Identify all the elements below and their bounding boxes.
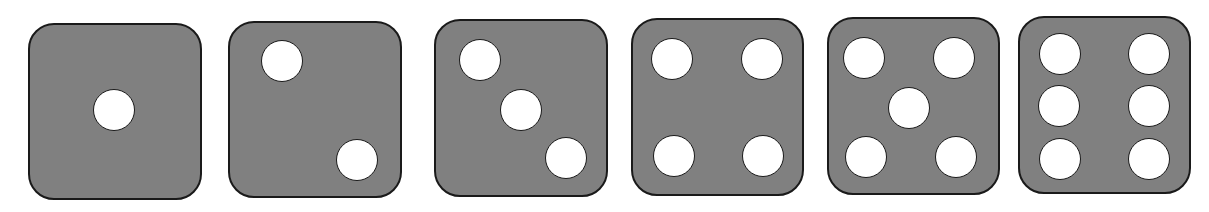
pip-icon xyxy=(843,37,885,79)
pip-icon xyxy=(1039,138,1081,180)
die-face-3: 3 xyxy=(434,19,608,197)
pip-icon xyxy=(459,39,501,81)
pip-icon xyxy=(1128,138,1170,180)
pip-icon xyxy=(933,37,975,79)
pip-icon xyxy=(261,40,303,82)
pip-icon xyxy=(500,89,542,131)
pip-icon xyxy=(935,136,977,178)
die-face-4: 4 xyxy=(631,18,804,196)
pip-icon xyxy=(1128,33,1170,75)
die-face-5: 5 xyxy=(827,17,1000,195)
pip-icon xyxy=(742,135,784,177)
pip-icon xyxy=(1038,85,1080,127)
die-face-6: 6 xyxy=(1018,16,1191,194)
die-face-2: 2 xyxy=(228,21,402,198)
pip-icon xyxy=(888,87,930,129)
die-face-1: 1 xyxy=(28,23,202,200)
pip-icon xyxy=(845,136,887,178)
pip-icon xyxy=(545,137,587,179)
pip-icon xyxy=(336,139,378,181)
pip-icon xyxy=(653,135,695,177)
pip-icon xyxy=(1128,85,1170,127)
pip-icon xyxy=(93,89,135,131)
pip-icon xyxy=(651,38,693,80)
pip-icon xyxy=(1039,33,1081,75)
pip-icon xyxy=(741,38,783,80)
